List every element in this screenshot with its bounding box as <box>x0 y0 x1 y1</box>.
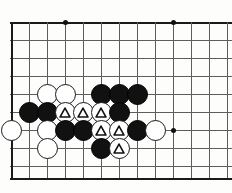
white-stone[interactable] <box>37 138 58 159</box>
white-stone-marked[interactable] <box>109 138 130 159</box>
triangle-marker-icon <box>59 107 71 118</box>
triangle-marker-icon <box>113 143 125 154</box>
white-stone[interactable] <box>145 120 166 141</box>
go-board-diagram <box>0 0 232 193</box>
white-stone[interactable] <box>1 120 22 141</box>
stone-layer <box>0 0 232 193</box>
triangle-marker-icon <box>113 125 125 136</box>
triangle-marker-icon <box>95 125 107 136</box>
triangle-marker-icon <box>77 107 89 118</box>
triangle-marker-icon <box>95 107 107 118</box>
black-stone[interactable] <box>127 84 148 105</box>
